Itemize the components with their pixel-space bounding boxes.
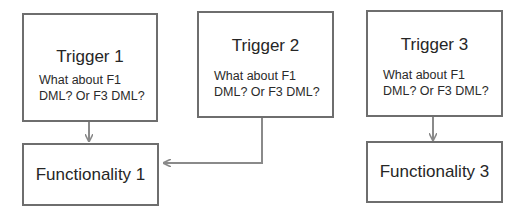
- trigger-2-title: Trigger 2: [199, 36, 332, 56]
- trigger-1-note: What about F1 DML? Or F3 DML?: [39, 72, 145, 104]
- trigger-1-box: Trigger 1 What about F1 DML? Or F3 DML?: [22, 13, 158, 122]
- functionality-3-box: Functionality 3: [366, 141, 503, 203]
- functionality-1-label: Functionality 1: [24, 165, 157, 185]
- trigger-2-box: Trigger 2 What about F1 DML? Or F3 DML?: [197, 11, 334, 118]
- trigger-3-note: What about F1 DML? Or F3 DML?: [383, 67, 489, 99]
- arrow-trigger2-to-functionality1: [164, 117, 262, 163]
- functionality-3-label: Functionality 3: [368, 162, 501, 182]
- functionality-1-box: Functionality 1: [22, 143, 159, 206]
- trigger-2-note: What about F1 DML? Or F3 DML?: [214, 68, 320, 100]
- trigger-1-title: Trigger 1: [24, 47, 156, 67]
- trigger-3-box: Trigger 3 What about F1 DML? Or F3 DML?: [366, 10, 503, 117]
- trigger-3-title: Trigger 3: [368, 35, 501, 55]
